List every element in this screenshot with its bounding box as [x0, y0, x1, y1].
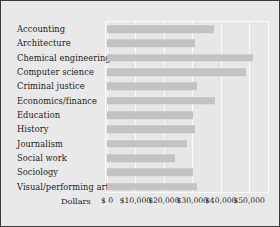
bar-row: Architecture	[9, 36, 271, 50]
bar-row: Visual/performing arts	[9, 180, 271, 194]
category-label: Visual/performing arts	[17, 182, 113, 192]
x-tick-label: $20,000	[148, 196, 179, 205]
bar-row: Education	[9, 108, 271, 122]
category-label: Journalism	[17, 139, 63, 149]
bar-row: Chemical engineering	[9, 51, 271, 65]
figure-inner: AccountingArchitectureChemical engineeri…	[6, 6, 274, 221]
category-label: Computer science	[17, 67, 94, 77]
category-label: Sociology	[17, 167, 58, 177]
bar-row: History	[9, 122, 271, 136]
category-label: Education	[17, 110, 60, 120]
figure-panel: AccountingArchitectureChemical engineeri…	[0, 0, 280, 227]
bar-row: Social work	[9, 151, 271, 165]
bar	[107, 154, 175, 162]
bar	[107, 54, 253, 62]
bar	[107, 140, 187, 148]
bar-row: Economics/finance	[9, 94, 271, 108]
bar	[107, 25, 214, 33]
x-tick-label: $50,000	[233, 196, 264, 205]
category-label: Economics/finance	[17, 96, 97, 106]
x-tick-label: $40,000	[205, 196, 236, 205]
bar	[107, 169, 193, 177]
bar-rows: AccountingArchitectureChemical engineeri…	[9, 21, 271, 193]
bar-row: Accounting	[9, 22, 271, 36]
bar	[107, 97, 215, 105]
category-label: Chemical engineering	[17, 53, 111, 63]
category-label: Social work	[17, 153, 67, 163]
bar-row: Criminal justice	[9, 79, 271, 93]
bar-row: Computer science	[9, 65, 271, 79]
bar	[107, 183, 197, 191]
x-axis-tick-labels: $ 0$10,000$20,000$30,000$40,000$50,000	[9, 195, 271, 211]
category-label: History	[17, 124, 48, 134]
x-tick-label: $30,000	[177, 196, 208, 205]
bar-row: Journalism	[9, 137, 271, 151]
bar	[107, 83, 197, 91]
category-label: Criminal justice	[17, 81, 85, 91]
bar	[107, 111, 193, 119]
bar-row: Sociology	[9, 165, 271, 179]
category-label: Architecture	[17, 38, 71, 48]
category-label: Accounting	[17, 24, 65, 34]
x-tick-label: $10,000	[120, 196, 151, 205]
bar	[107, 126, 195, 134]
bar	[107, 40, 195, 48]
x-tick-label: $ 0	[101, 196, 113, 205]
bar	[107, 68, 246, 76]
bar-chart: AccountingArchitectureChemical engineeri…	[9, 11, 271, 219]
